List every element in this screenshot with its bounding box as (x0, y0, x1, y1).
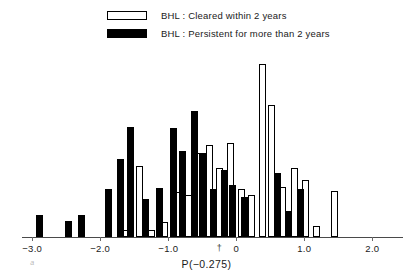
bar-persistent-15 (241, 197, 248, 237)
x-tick-2 (168, 237, 169, 241)
x-tick-label-1: −2.0 (90, 243, 110, 254)
bar-persistent-11 (199, 153, 206, 237)
x-axis-title: P(−0.275) (0, 258, 419, 270)
bar-container (0, 0, 419, 237)
x-tick-label-2: −1.0 (158, 243, 178, 254)
bar-cleared-17 (313, 226, 320, 237)
zero-reference-marker: † (217, 243, 222, 253)
x-tick-label-5: 2.0 (365, 243, 379, 254)
bar-persistent-18 (297, 189, 304, 237)
chart-root: BHL : Cleared within 2 years BHL : Persi… (0, 0, 419, 278)
x-tick-4 (304, 237, 305, 241)
bar-persistent-16 (274, 173, 281, 237)
bar-persistent-1 (65, 221, 72, 237)
x-axis-title-text: P(−0.275) (181, 258, 231, 270)
bar-cleared-11 (248, 195, 255, 237)
bar-persistent-2 (78, 215, 85, 237)
x-tick-label-3: 0 (234, 243, 240, 254)
x-tick-label-0: −3.0 (22, 243, 42, 254)
bar-persistent-14 (229, 185, 236, 237)
x-tick-1 (100, 237, 101, 241)
bar-persistent-5 (127, 127, 134, 237)
bar-persistent-8 (170, 128, 177, 237)
x-axis-line (22, 237, 403, 238)
x-tick-5 (372, 237, 373, 241)
bar-persistent-13 (221, 170, 228, 237)
bar-persistent-0 (36, 215, 43, 237)
bar-persistent-9 (179, 151, 186, 237)
bar-persistent-3 (105, 189, 112, 237)
bar-persistent-12 (210, 189, 217, 237)
bar-persistent-6 (142, 199, 149, 237)
x-tick-3 (236, 237, 237, 241)
bar-persistent-4 (117, 159, 124, 237)
bar-cleared-12 (259, 64, 266, 237)
bar-cleared-18 (331, 191, 338, 237)
bar-persistent-7 (156, 188, 163, 237)
x-tick-0 (32, 237, 33, 241)
plot-area: −3.0−2.0−1.001.02.0†a P(−0.275) (0, 0, 419, 278)
x-tick-label-4: 1.0 (297, 243, 311, 254)
bar-persistent-10 (191, 111, 198, 237)
bar-persistent-17 (285, 211, 292, 237)
